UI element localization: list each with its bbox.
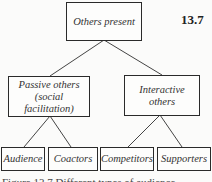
node-audience: Audience [1, 147, 45, 171]
node-supporters: Supporters [157, 147, 211, 171]
node-label: Others present [73, 16, 135, 28]
node-label: Competitors [101, 153, 153, 165]
node-sublabel: (social facilitation) [9, 91, 89, 115]
node-passive-others: Passive others (social facilitation) [8, 76, 90, 117]
node-label: Coactors [54, 153, 93, 165]
node-others-present: Others present [66, 2, 142, 41]
node-label: Passive others [19, 79, 80, 91]
node-label: Supporters [161, 153, 207, 165]
node-label: Interactive others [125, 84, 199, 108]
node-competitors: Competitors [100, 147, 154, 171]
figure-caption: Figure 13.7 Different types of audience [2, 176, 175, 182]
node-label: Audience [3, 153, 42, 165]
node-interactive-others: Interactive others [124, 75, 200, 116]
figure-number: 13.7 [181, 12, 204, 28]
node-coactors: Coactors [48, 147, 98, 171]
